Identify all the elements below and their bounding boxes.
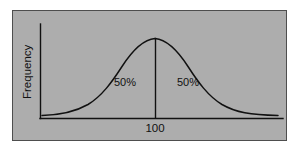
bell-curve-chart: Frequency 50% 50% 100	[0, 0, 298, 149]
right-region-label: 50%	[177, 76, 199, 88]
panel-texture	[13, 11, 287, 141]
x-axis-tick-label-mean: 100	[145, 122, 164, 134]
figure-container: Frequency 50% 50% 100	[0, 0, 298, 149]
y-axis-label: Frequency	[21, 44, 33, 99]
left-region-label: 50%	[114, 76, 136, 88]
